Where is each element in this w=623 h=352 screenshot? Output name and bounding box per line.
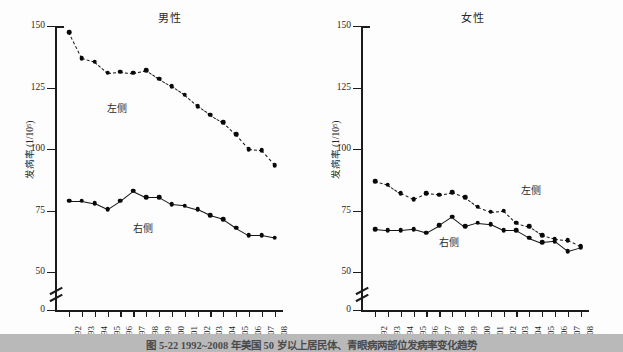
data-point: [411, 197, 416, 202]
data-point: [437, 192, 442, 197]
chart-panel-female: 女性 发病率 (1/10⁵) 0507510012515019921993199…: [311, 0, 623, 340]
data-point: [398, 228, 403, 233]
data-point: [578, 245, 583, 250]
data-point: [221, 120, 226, 125]
plot-area-female: 0507510012515019921993199419951996199719…: [361, 22, 593, 314]
data-point: [450, 190, 455, 195]
x-tick: [275, 311, 276, 317]
y-tick: [47, 272, 55, 273]
data-point: [144, 195, 149, 200]
data-point: [501, 208, 506, 213]
y-tick-label: 100: [31, 144, 45, 154]
x-tick: [529, 311, 530, 317]
y-tick: [353, 149, 361, 150]
x-tick: [414, 311, 415, 317]
y-tick: [353, 310, 361, 311]
x-tick: [133, 311, 134, 317]
data-point: [450, 214, 455, 219]
data-point: [488, 222, 493, 227]
y-axis: [361, 26, 363, 310]
x-tick: [375, 311, 376, 317]
x-tick: [159, 311, 160, 317]
data-point: [170, 202, 175, 207]
y-tick: [47, 149, 55, 150]
data-point: [247, 233, 252, 238]
data-point: [259, 148, 264, 153]
data-point: [540, 240, 545, 245]
data-point: [424, 191, 429, 196]
x-tick: [555, 311, 556, 317]
y-tick: [353, 272, 361, 273]
y-tick: [353, 211, 361, 212]
chart-panel-male: 男性 发病率 (1/10⁵) 0507510012515019921993199…: [0, 0, 312, 340]
y-tick: [47, 310, 55, 311]
data-point: [144, 68, 149, 73]
data-point: [105, 207, 110, 212]
y-tick-label: 125: [31, 83, 45, 93]
x-tick: [69, 311, 70, 317]
data-point: [118, 198, 123, 203]
x-tick: [185, 311, 186, 317]
x-tick: [401, 311, 402, 317]
x-tick: [223, 311, 224, 317]
data-point: [411, 227, 416, 232]
data-point: [80, 198, 85, 203]
y-tick-label: 150: [337, 21, 351, 31]
x-tick: [120, 311, 121, 317]
x-tick: [262, 311, 263, 317]
data-point: [373, 227, 378, 232]
series-label-right: 右侧: [439, 234, 459, 249]
x-tick: [108, 311, 109, 317]
x-tick: [210, 311, 211, 317]
plot-area-male: 0507510012515019921993199419951996199719…: [55, 22, 287, 314]
data-point: [67, 198, 72, 203]
x-tick: [465, 311, 466, 317]
y-tick-label: 150: [31, 21, 45, 31]
series-label-left: 左侧: [521, 182, 541, 197]
data-point: [386, 228, 391, 233]
data-point: [565, 249, 570, 254]
data-point: [118, 69, 123, 74]
data-point: [67, 30, 72, 35]
x-tick: [146, 311, 147, 317]
data-point: [527, 235, 532, 240]
data-point: [131, 70, 136, 75]
x-tick: [478, 311, 479, 317]
figure-caption: 图 5-22 1992~2008 年美国 50 岁以上居民体、青眼病两部位发病率…: [0, 337, 623, 352]
data-point: [514, 221, 519, 226]
figure-container: 男性 发病率 (1/10⁵) 0507510012515019921993199…: [0, 0, 623, 352]
data-point: [476, 205, 481, 210]
data-point: [514, 228, 519, 233]
data-point: [247, 147, 252, 152]
x-tick: [568, 311, 569, 317]
x-tick: [581, 311, 582, 317]
x-tick: [236, 311, 237, 317]
data-point: [92, 59, 97, 64]
y-tick-label: 50: [342, 267, 352, 277]
series-label-right: 右侧: [133, 220, 153, 235]
data-point: [105, 70, 110, 75]
data-point: [195, 207, 200, 212]
data-point: [527, 224, 532, 229]
x-tick: [198, 311, 199, 317]
y-axis: [55, 26, 57, 310]
x-tick: [249, 311, 250, 317]
data-point: [437, 223, 442, 228]
x-tick: [504, 311, 505, 317]
x-tick: [439, 311, 440, 317]
x-tick: [542, 311, 543, 317]
y-tick-label: 100: [337, 144, 351, 154]
data-point: [80, 56, 85, 61]
x-tick: [516, 311, 517, 317]
data-point: [234, 225, 239, 230]
data-point: [553, 239, 558, 244]
data-point: [565, 238, 570, 243]
data-point: [373, 179, 378, 184]
y-axis-top-cap: [361, 26, 370, 28]
series-line-segment: [68, 32, 82, 58]
y-tick: [47, 88, 55, 89]
data-point: [501, 228, 506, 233]
y-tick-label: 0: [346, 305, 351, 315]
data-point: [208, 112, 213, 117]
data-point: [157, 77, 162, 82]
